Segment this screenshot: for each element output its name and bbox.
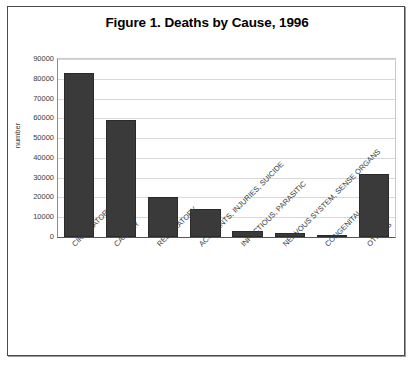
x-axis-tick-labels: CIRCULATORYCANCERRESPIRATORYACCIDENTS, I…: [57, 236, 394, 351]
y-axis-tick-label: 90000: [10, 54, 54, 63]
y-axis-tick-label: 60000: [10, 113, 54, 122]
y-axis-tick-label: 0: [10, 232, 54, 241]
y-axis-tick-label: 80000: [10, 73, 54, 82]
y-axis-tick-label: 70000: [10, 93, 54, 102]
page-title: Figure 1. Deaths by Cause, 1996: [8, 15, 406, 30]
y-axis-tick-label: 20000: [10, 192, 54, 201]
y-axis-tick-label: 40000: [10, 152, 54, 161]
bar[interactable]: [64, 73, 94, 237]
figure-frame: Figure 1. Deaths by Cause, 1996 number 0…: [7, 6, 405, 356]
bar-slot: [142, 59, 184, 237]
y-axis-tick-label: 50000: [10, 133, 54, 142]
y-axis-tick-labels: 0100002000030000400005000060000700008000…: [8, 58, 54, 236]
y-axis-tick-label: 10000: [10, 212, 54, 221]
bar-slot: [58, 59, 100, 237]
bar[interactable]: [106, 120, 136, 237]
y-axis-tick-label: 30000: [10, 172, 54, 181]
